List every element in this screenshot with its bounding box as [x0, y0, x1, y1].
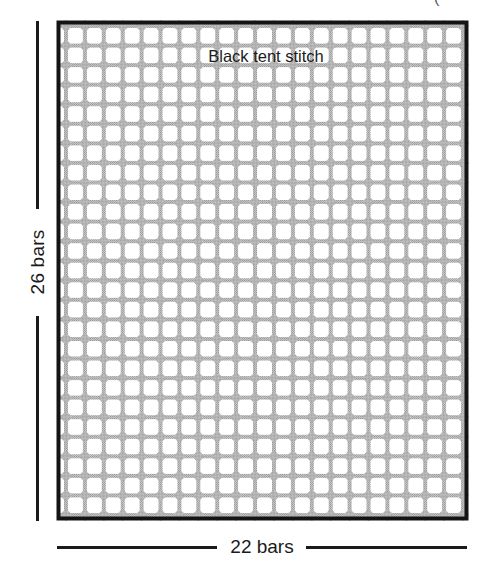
- vertical-bar: [253, 21, 257, 520]
- width-dimension-label: 22 bars: [224, 536, 300, 558]
- vertical-bar: [291, 21, 295, 520]
- vertical-bar: [348, 21, 352, 520]
- vertical-bar: [423, 21, 427, 520]
- vertical-bar: [64, 21, 68, 520]
- vertical-bar: [196, 21, 200, 520]
- vertical-bar: [442, 21, 446, 520]
- vertical-bar: [329, 21, 333, 520]
- vertical-bar: [310, 21, 314, 520]
- vertical-bar: [177, 21, 181, 520]
- canvas-grid: [0, 0, 494, 569]
- vertical-bar: [83, 21, 87, 520]
- vertical-bar: [234, 21, 238, 520]
- vertical-bar: [140, 21, 144, 520]
- vertical-bar: [215, 21, 219, 520]
- stitch-type-label: Black tent stitch: [180, 47, 352, 66]
- vertical-bar: [404, 21, 408, 520]
- vertical-bar: [385, 21, 389, 520]
- width-dimension-line-right: [306, 546, 467, 549]
- vertical-bar: [367, 21, 371, 520]
- vertical-bar: [102, 21, 106, 520]
- vertical-bar: [159, 21, 163, 520]
- diagram-canvas: ( 26 bars Black tent stitch 22 bars: [0, 0, 494, 569]
- vertical-bar: [272, 21, 276, 520]
- vertical-bar: [461, 21, 465, 520]
- vertical-bar: [121, 21, 125, 520]
- width-dimension-line-left: [57, 546, 217, 549]
